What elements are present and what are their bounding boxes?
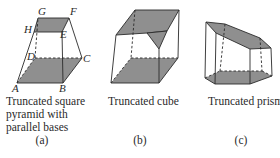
vertex-label-d: D xyxy=(26,50,35,62)
sublabel-b: (b) xyxy=(128,134,152,147)
cube-top-face xyxy=(116,10,179,35)
caption-a: Truncated square pyramid with parallel b… xyxy=(6,95,85,134)
caption-b: Truncated cube xyxy=(108,95,179,108)
caption-c-line-1: Truncated prism xyxy=(208,95,280,108)
vertex-label-c: C xyxy=(83,52,91,64)
truncated-cube-figure xyxy=(111,10,179,83)
caption-a-line-1: Truncated square xyxy=(6,95,85,108)
vertex-label-e: E xyxy=(59,28,67,40)
sublabel-a: (a) xyxy=(30,134,54,147)
vertex-label-f: F xyxy=(69,5,77,17)
truncated-pyramid-figure: G F H E D C A B xyxy=(11,5,91,94)
vertex-label-b: B xyxy=(59,82,66,94)
truncated-prism-figure xyxy=(205,22,272,84)
caption-c: Truncated prism xyxy=(208,95,280,108)
sublabel-c: (c) xyxy=(229,134,253,147)
caption-a-line-2: pyramid with xyxy=(6,108,85,121)
caption-a-line-3: parallel bases xyxy=(6,121,85,134)
caption-b-line-1: Truncated cube xyxy=(108,95,179,108)
vertex-label-h: H xyxy=(23,23,33,35)
vertex-label-a: A xyxy=(11,82,19,94)
vertex-label-g: G xyxy=(38,5,46,17)
cube-cut-face xyxy=(147,31,167,49)
